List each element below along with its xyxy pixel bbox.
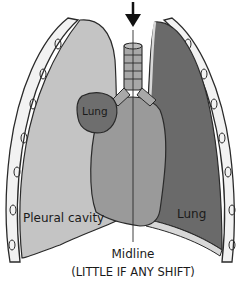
midline-label: Midline: [112, 247, 155, 261]
left-lung-label: Lung: [82, 105, 108, 117]
right-lung-label: Lung: [177, 207, 206, 221]
down-arrow-icon: [125, 2, 141, 27]
chest-diagram: Lung Pleural cavity Lung Midline (LITTLE…: [0, 0, 245, 284]
pleural-cavity-label: Pleural cavity: [23, 211, 104, 225]
shift-note-label: (LITTLE IF ANY SHIFT): [71, 265, 195, 279]
